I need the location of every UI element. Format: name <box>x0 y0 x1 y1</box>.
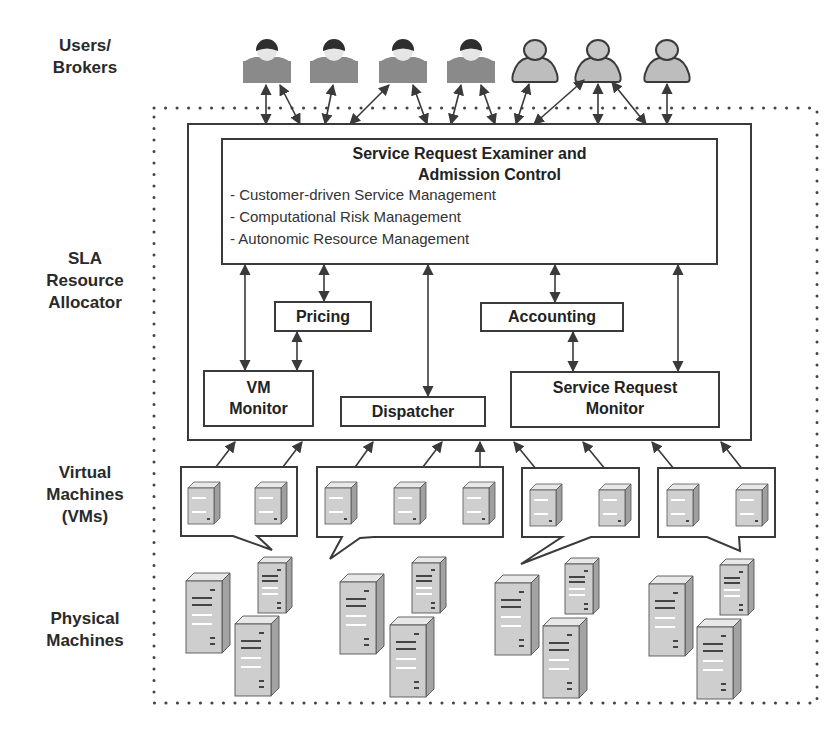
vm-server-icon <box>530 484 562 526</box>
label-physical-machines: Physical Machines <box>10 608 160 652</box>
physical-cluster-2 <box>340 557 446 697</box>
user-icon <box>243 39 291 83</box>
label-line: Monitor <box>511 398 719 419</box>
service-request-monitor-label: Service Request Monitor <box>511 377 719 419</box>
vm-group-2 <box>317 467 503 559</box>
label-line: Machines <box>10 484 160 506</box>
label-virtual-machines: Virtual Machines (VMs) <box>10 462 160 528</box>
broker-icon <box>644 40 689 82</box>
label-line: Allocator <box>10 292 160 314</box>
label-line: Resource <box>10 270 160 292</box>
vm-server-icon <box>394 482 426 524</box>
label-line: Physical <box>10 608 160 630</box>
user-icon <box>379 39 427 83</box>
broker-icon <box>575 40 620 82</box>
label-sla-resource-allocator: SLA Resource Allocator <box>10 248 160 314</box>
vm-server-icon <box>188 482 220 524</box>
label-line: Service Request <box>511 377 719 398</box>
vm-server-icon <box>667 484 699 526</box>
physical-server-icon <box>495 575 539 655</box>
physical-server-icon <box>390 617 434 697</box>
physical-server-icon <box>543 618 587 698</box>
physical-server-icon <box>186 573 230 653</box>
physical-server-icon <box>720 559 754 615</box>
label-line: Brokers <box>10 57 160 79</box>
examiner-item: - Autonomic Resource Management <box>230 228 496 250</box>
physical-server-icon <box>235 616 279 696</box>
physical-server-icon <box>697 619 741 699</box>
vm-server-icon <box>325 482 357 524</box>
examiner-item: - Customer-driven Service Management <box>230 184 496 206</box>
physical-server-icon <box>565 558 599 614</box>
dispatcher-label: Dispatcher <box>341 401 485 422</box>
examiner-item: - Computational Risk Management <box>230 206 496 228</box>
vm-server-icon <box>463 482 495 524</box>
label-line: Virtual <box>10 462 160 484</box>
examiner-title: Service Request Examiner and Admission C… <box>222 143 717 185</box>
physical-cluster-4 <box>649 559 754 699</box>
examiner-items: - Customer-driven Service Management - C… <box>230 184 496 250</box>
physical-server-icon <box>649 576 693 656</box>
label-line: (VMs) <box>10 506 160 528</box>
pricing-label: Pricing <box>275 306 371 327</box>
label-users-brokers: Users/ Brokers <box>10 35 160 79</box>
physical-server-icon <box>258 557 292 613</box>
label-line: Machines <box>10 630 160 652</box>
examiner-title-line1: Service Request Examiner and <box>222 143 717 164</box>
user-icon <box>310 39 358 83</box>
label-line: VM <box>204 377 313 398</box>
vm-server-icon <box>736 484 768 526</box>
physical-cluster-3 <box>495 558 599 698</box>
physical-server-icon <box>340 574 384 654</box>
broker-icon <box>512 40 557 82</box>
vm-server-icon <box>255 482 287 524</box>
vm-monitor-label: VM Monitor <box>204 377 313 419</box>
label-line: Monitor <box>204 398 313 419</box>
vm-group-4 <box>658 468 775 551</box>
vm-server-icon <box>599 484 631 526</box>
user-arrows <box>266 80 667 124</box>
users-row <box>243 39 690 83</box>
label-line: Users/ <box>10 35 160 57</box>
user-icon <box>447 39 495 83</box>
label-line: SLA <box>10 248 160 270</box>
examiner-title-line2: Admission Control <box>222 164 717 185</box>
physical-cluster-1 <box>186 557 292 696</box>
physical-server-icon <box>412 557 446 613</box>
accounting-label: Accounting <box>481 306 623 327</box>
vm-group-1 <box>181 467 297 550</box>
vm-group-3 <box>521 468 639 564</box>
